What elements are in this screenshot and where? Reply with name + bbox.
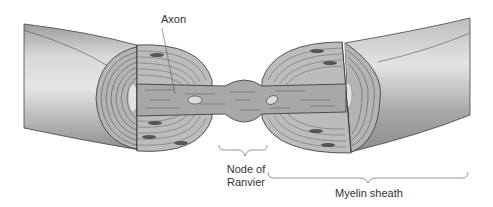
node-label-line1: Node of (222, 163, 270, 176)
myelin-sheath-label: Myelin sheath (335, 187, 403, 200)
mitochondrion (188, 96, 202, 104)
node-of-ranvier-label: Node of Ranvier (222, 163, 270, 189)
node-of-ranvier-bracket (219, 145, 267, 156)
schwann-nucleus (150, 53, 164, 57)
node-label-line2: Ranvier (222, 176, 270, 189)
axon-label: Axon (161, 13, 186, 26)
myelin-sheath-bracket (268, 172, 468, 183)
